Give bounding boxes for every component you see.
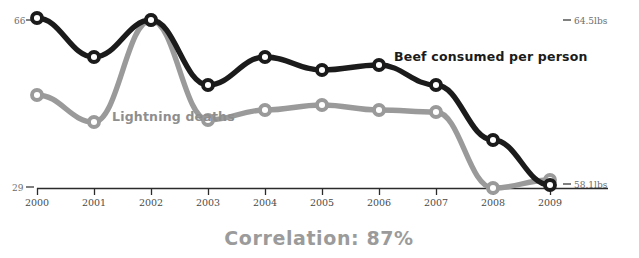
data-point-marker[interactable] (488, 183, 498, 193)
data-point-marker[interactable] (32, 90, 42, 100)
x-tick-label-2002: 2002 (139, 197, 163, 208)
x-tick-label-2004: 2004 (253, 197, 277, 208)
x-tick-label-2008: 2008 (481, 197, 505, 208)
x-tick-label-2000: 2000 (25, 197, 49, 208)
data-point-marker[interactable] (260, 105, 270, 115)
data-point-marker[interactable] (545, 180, 555, 190)
series-lightning-deaths (32, 15, 555, 193)
correlation-label: Correlation: 87% (224, 227, 413, 249)
x-tick-label-2007: 2007 (424, 197, 448, 208)
data-point-marker[interactable] (89, 52, 99, 62)
data-point-marker[interactable] (146, 15, 156, 25)
data-point-marker[interactable] (488, 135, 498, 145)
correlation-chart: 66 29 64.5lbs 58.1lbs 2000 2001 2002 200… (0, 0, 639, 258)
lightning-series-label: Lightning deaths (112, 109, 235, 124)
left-axis-top-label: 66 (14, 16, 26, 26)
x-tick-label-2006: 2006 (367, 197, 391, 208)
x-axis: 2000 2001 2002 2003 2004 2005 2006 2007 … (25, 188, 608, 208)
data-point-marker[interactable] (260, 52, 270, 62)
data-point-marker[interactable] (89, 117, 99, 127)
right-axis-top-label: 64.5lbs (574, 16, 608, 26)
x-tick-label-2003: 2003 (196, 197, 220, 208)
data-point-marker[interactable] (32, 13, 42, 23)
data-point-marker[interactable] (431, 80, 441, 90)
data-point-marker[interactable] (374, 60, 384, 70)
beef-series-label: Beef consumed per person (394, 49, 588, 64)
x-tick-label-2005: 2005 (310, 197, 334, 208)
data-point-marker[interactable] (203, 80, 213, 90)
x-tick-label-2001: 2001 (82, 197, 106, 208)
data-point-marker[interactable] (317, 65, 327, 75)
x-tick-label-2009: 2009 (538, 197, 562, 208)
data-point-marker[interactable] (317, 100, 327, 110)
data-point-marker[interactable] (431, 107, 441, 117)
data-point-marker[interactable] (374, 105, 384, 115)
left-axis-bottom-label: 29 (12, 183, 24, 193)
